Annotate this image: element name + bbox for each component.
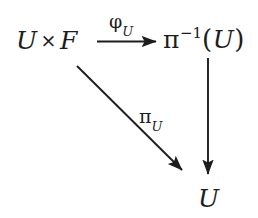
- arrow-diagonal-pi: [77, 66, 182, 170]
- close-paren: ): [234, 24, 245, 54]
- node-target-base-symbol: π: [163, 25, 180, 54]
- times-operator-icon: ×: [38, 29, 60, 51]
- node-base-space: U: [198, 186, 220, 211]
- arrow-label-pi-subscript: U: [152, 119, 163, 134]
- arrow-label-phi: φU: [109, 12, 133, 35]
- node-target-exponent: −1: [180, 24, 202, 42]
- open-paren: (: [202, 24, 213, 54]
- node-base-symbol: U: [198, 184, 220, 213]
- node-source-right-symbol: F: [60, 26, 78, 55]
- arrow-label-phi-base: φ: [109, 10, 122, 32]
- arrow-label-pi: πU: [139, 107, 162, 130]
- arrow-label-pi-base: π: [139, 105, 152, 127]
- commutative-diagram: U×F π−1(U) U φU πU: [0, 0, 258, 218]
- arrow-label-phi-subscript: U: [122, 24, 133, 39]
- node-target-argument: U: [213, 25, 235, 54]
- node-target-preimage: π−1(U): [163, 26, 245, 52]
- node-source-product: U×F: [16, 28, 78, 53]
- node-source-left-symbol: U: [16, 26, 38, 55]
